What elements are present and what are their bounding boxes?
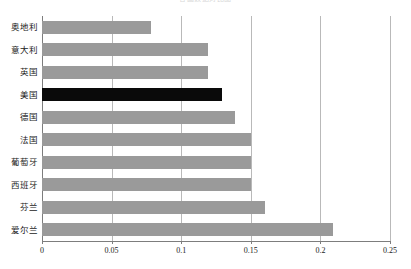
y-axis-label-美国: 美国 xyxy=(20,90,38,100)
y-axis-label-芬兰: 芬兰 xyxy=(20,202,38,212)
bar-row xyxy=(42,16,390,39)
x-tick-0.2 xyxy=(320,241,321,244)
bar-row xyxy=(42,151,390,174)
y-axis-label-爱尔兰: 爱尔兰 xyxy=(11,225,38,235)
y-axis-label-西班牙: 西班牙 xyxy=(11,180,38,190)
bar-德国 xyxy=(42,111,235,124)
bar-美国 xyxy=(42,88,222,101)
x-tick-0.25 xyxy=(390,241,391,244)
y-axis-label-法国: 法国 xyxy=(20,135,38,145)
chart-title: 各国数据对比图 xyxy=(0,0,411,2)
bar-row xyxy=(42,84,390,107)
x-tick-0.05 xyxy=(112,241,113,244)
bar-row xyxy=(42,129,390,152)
bar-row xyxy=(42,106,390,129)
bar-芬兰 xyxy=(42,201,265,214)
x-axis-baseline xyxy=(42,241,391,242)
bar-奥地利 xyxy=(42,21,151,34)
bar-意大利 xyxy=(42,43,208,56)
y-axis-label-意大利: 意大利 xyxy=(11,45,38,55)
bar-chart: 各国数据对比图 奥地利意大利英国美国德国法国葡萄牙西班牙芬兰爱尔兰00.050.… xyxy=(0,0,411,269)
bar-row xyxy=(42,174,390,197)
bar-row xyxy=(42,196,390,219)
bar-西班牙 xyxy=(42,178,251,191)
bar-row xyxy=(42,219,390,242)
x-axis-label-0.15: 0.15 xyxy=(231,246,271,256)
bar-row xyxy=(42,39,390,62)
y-axis-label-奥地利: 奥地利 xyxy=(11,22,38,32)
x-axis-label-0.05: 0.05 xyxy=(92,246,132,256)
x-axis-label-0.25: 0.25 xyxy=(370,246,410,256)
bar-法国 xyxy=(42,133,251,146)
y-axis-label-英国: 英国 xyxy=(20,67,38,77)
x-tick-0.1 xyxy=(181,241,182,244)
x-axis-label-0.2: 0.2 xyxy=(300,246,340,256)
x-tick-0 xyxy=(42,241,43,244)
bar-葡萄牙 xyxy=(42,156,251,169)
x-axis-label-0: 0 xyxy=(22,246,62,256)
x-axis-label-0.1: 0.1 xyxy=(161,246,201,256)
plot-area xyxy=(42,16,390,241)
bar-row xyxy=(42,61,390,84)
x-tick-0.15 xyxy=(251,241,252,244)
bar-爱尔兰 xyxy=(42,223,333,236)
bar-英国 xyxy=(42,66,208,79)
y-axis-label-德国: 德国 xyxy=(20,112,38,122)
y-axis-label-葡萄牙: 葡萄牙 xyxy=(11,157,38,167)
gridline-0.25 xyxy=(390,16,391,241)
